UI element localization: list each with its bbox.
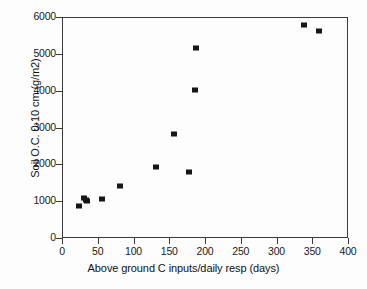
data-point	[301, 23, 307, 28]
x-tick-mark	[312, 238, 313, 244]
data-points-layer	[62, 17, 348, 238]
data-point	[99, 197, 105, 202]
x-tick-mark	[205, 238, 206, 244]
x-tick-label: 350	[292, 245, 332, 257]
x-tick-label: 200	[185, 245, 225, 257]
data-point	[316, 29, 322, 34]
data-point	[192, 88, 198, 93]
x-tick-label: 300	[257, 245, 297, 257]
data-point	[186, 170, 192, 175]
y-tick-label: 0	[12, 232, 56, 242]
x-tick-mark	[134, 238, 135, 244]
x-tick-label: 0	[42, 245, 82, 257]
x-tick-mark	[277, 238, 278, 244]
data-point	[117, 183, 123, 188]
x-tick-label: 150	[149, 245, 189, 257]
x-tick-mark	[62, 238, 63, 244]
data-point	[193, 45, 199, 50]
x-tick-label: 400	[328, 245, 367, 257]
data-point	[153, 164, 159, 169]
data-point	[171, 132, 177, 137]
x-tick-label: 250	[221, 245, 261, 257]
x-tick-mark	[169, 238, 170, 244]
x-tick-mark	[98, 238, 99, 244]
x-tick-mark	[348, 238, 349, 244]
x-tick-mark	[241, 238, 242, 244]
y-axis-title: Soil O.C. 0-10 cm (g/m2)	[29, 8, 41, 228]
x-tick-label: 50	[78, 245, 118, 257]
data-point	[84, 198, 90, 203]
x-axis-title: Above ground C inputs/daily resp (days)	[0, 262, 367, 274]
scatter-plot-figure: 0100020003000400050006000 05010015020025…	[0, 0, 367, 289]
x-tick-label: 100	[114, 245, 154, 257]
data-point	[76, 203, 82, 208]
